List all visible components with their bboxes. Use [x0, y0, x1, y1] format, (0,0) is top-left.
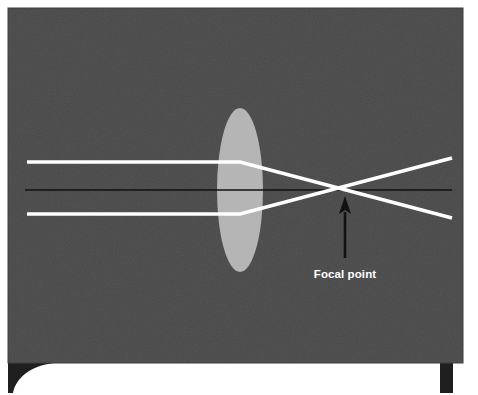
- focal-point-label: Focal point: [314, 268, 376, 280]
- right-foot: [440, 363, 453, 393]
- lens-ray-diagram: Focal point: [0, 0, 478, 395]
- diagram-canvas: Focal point: [0, 0, 478, 395]
